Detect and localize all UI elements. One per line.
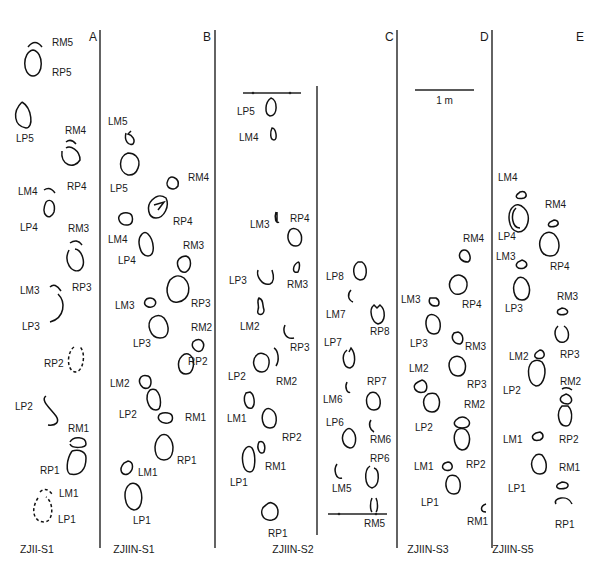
footprint-outline — [557, 308, 567, 315]
footprint-label: LM5 — [108, 116, 128, 127]
footprint-label: RP3 — [467, 379, 487, 390]
footprint-label: LP3 — [505, 303, 523, 314]
footprint-outline — [140, 375, 151, 388]
footprint-label: RM5 — [364, 518, 386, 529]
footprint-label: LP2 — [415, 422, 433, 433]
footprint-label: LM3 — [496, 251, 516, 262]
footprint-label: RM3 — [183, 240, 205, 251]
footprint-outline — [244, 392, 254, 408]
footprint-outline — [516, 192, 526, 199]
footprint-label: LP2 — [119, 409, 137, 420]
footprint-label: LM4 — [498, 172, 518, 183]
footprint-label: RM2 — [276, 376, 298, 387]
footprint-outline — [346, 382, 350, 392]
panel-letter: C — [385, 30, 394, 44]
footprint-outline — [560, 394, 571, 404]
footprint-outline — [121, 461, 132, 474]
footprint-outline — [125, 131, 134, 144]
footprint-outline — [119, 213, 133, 225]
footprint-label: RP4 — [173, 216, 193, 227]
footprint-label: RM5 — [52, 37, 74, 48]
panel-letter: E — [576, 30, 584, 44]
footprint-label: RP4 — [67, 181, 87, 192]
footprint-outline — [535, 350, 544, 359]
footprint-label: RM4 — [545, 199, 567, 210]
trackway-id-label: ZJIIN-S1 — [113, 543, 155, 555]
footprint-outline — [288, 229, 302, 247]
scale-bar-label: 1 m — [436, 95, 453, 106]
footprint-outline — [178, 256, 191, 272]
footprint-outline — [67, 438, 86, 475]
footprint-label: LM3 — [115, 300, 135, 311]
footprint-outline — [258, 270, 274, 284]
panel-c: CZJIIN-S2LP5LM4LM3RP4LP3RM3LM2RP3LP2RM2L… — [227, 30, 394, 555]
footprint-outline — [367, 392, 381, 410]
footprint-outline — [533, 432, 543, 440]
footprint-outline — [243, 447, 255, 473]
footprint-label: RM1 — [467, 516, 489, 527]
footprint-label: LP3 — [133, 338, 151, 349]
footprint-label: RM1 — [68, 423, 90, 434]
footprint-label: LM4 — [18, 186, 38, 197]
footprint-label: RM2 — [560, 376, 582, 387]
footprint-label: LP3 — [410, 338, 428, 349]
footprint-outline — [155, 435, 173, 461]
trackway-id-label: ZJIIN-S2 — [272, 543, 314, 555]
footprint-label: RP6 — [370, 453, 390, 464]
footprint-label: RM2 — [464, 399, 486, 410]
footprint-label: RP2 — [282, 432, 302, 443]
footprint-label: RM1 — [265, 461, 287, 472]
footprint-outline — [429, 298, 439, 306]
footprint-outline — [67, 241, 83, 271]
footprint-outline — [454, 417, 469, 428]
footprint-outline — [562, 388, 572, 390]
footprint-outline — [335, 464, 342, 478]
footprint-outline — [16, 102, 31, 128]
baseline-tick — [289, 92, 292, 95]
footprint-outline — [125, 483, 142, 510]
footprint-label: LP5 — [110, 183, 128, 194]
footprint-label: RP1 — [268, 528, 288, 539]
footprint-label: RP8 — [370, 326, 390, 337]
footprint-outline — [371, 498, 378, 512]
footprint-label: RM4 — [188, 172, 210, 183]
footprint-label: LP1 — [230, 477, 248, 488]
footprint-label: RP3 — [72, 282, 92, 293]
footprint-label: RM1 — [559, 462, 581, 473]
footprint-outline — [366, 466, 379, 488]
footprint-outline — [271, 128, 276, 140]
footprint-outline — [28, 43, 42, 48]
footprint-outline — [294, 262, 300, 272]
footprint-label: RP2 — [188, 356, 208, 367]
footprint-outline — [167, 177, 178, 189]
trackway-id-label: ZJIIN-S3 — [407, 543, 449, 555]
footprint-outline — [482, 504, 487, 512]
footprint-outline — [532, 454, 547, 474]
trackway-id-label: ZJII-S1 — [20, 543, 54, 555]
footprint-outline — [343, 348, 354, 368]
footprint-outline — [192, 340, 203, 352]
footprint-label: LM2 — [409, 363, 429, 374]
footprint-label: LM1 — [414, 461, 434, 472]
footprint-outline — [62, 140, 80, 165]
footprint-outline — [414, 380, 427, 392]
footprint-label: RP4 — [462, 299, 482, 310]
footprint-label: LP1 — [421, 497, 439, 508]
panel-letter: D — [480, 30, 489, 44]
footprint-label: LM3 — [401, 294, 421, 305]
footprint-outline — [446, 475, 460, 494]
footprint-label: RM3 — [287, 279, 309, 290]
footprint-label: LP1 — [508, 483, 526, 494]
panel-d: DZJIIN-S3RM4LM3RP4LP3RM3LM2RP3RM2LP2LM1R… — [401, 30, 489, 555]
footprint-outline — [555, 326, 568, 342]
footprint-outline — [349, 290, 353, 302]
footprint-outline — [540, 233, 559, 257]
footprint-label: LM1 — [503, 434, 523, 445]
footprint-label: LP4 — [498, 231, 516, 242]
footprint-outline — [343, 429, 356, 449]
footprint-label: LP3 — [22, 321, 40, 332]
footprint-label: LM4 — [108, 234, 128, 245]
footprint-outline — [258, 442, 265, 453]
footprint-outline — [258, 298, 264, 315]
footprint-label: LP1 — [133, 515, 151, 526]
